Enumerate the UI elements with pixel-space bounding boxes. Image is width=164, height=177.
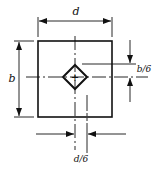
core-section-diagram: + d b b/6 d/6 (0, 0, 164, 177)
b6-label: b/6 (137, 64, 152, 74)
center-mark: + (71, 72, 79, 83)
b-label: b (8, 72, 15, 85)
d6-label: d/6 (74, 154, 89, 164)
d-label: d (72, 5, 79, 18)
